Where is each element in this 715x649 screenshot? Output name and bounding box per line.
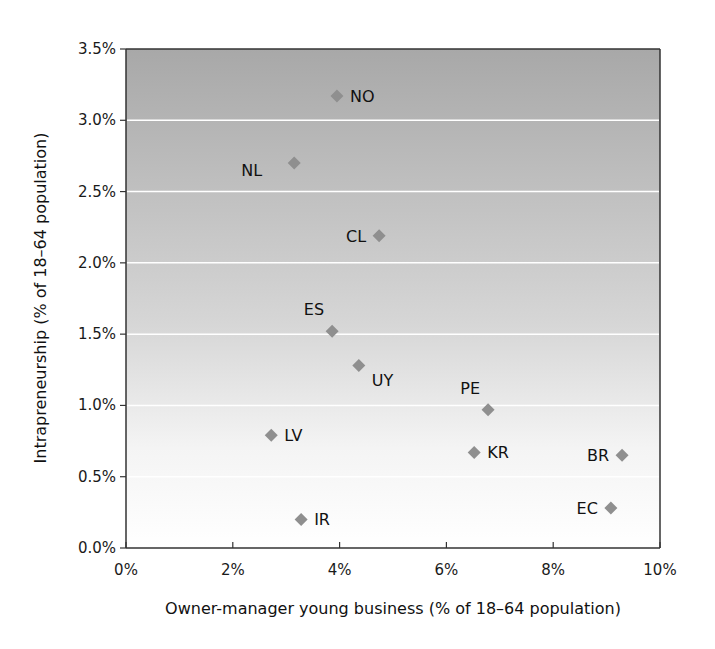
y-tick-label: 0.0% [78,539,116,557]
y-axis-ticks: 0.0%0.5%1.0%1.5%2.0%2.5%3.0%3.5% [78,40,126,557]
y-tick-label: 3.0% [78,111,116,129]
point-label: EC [577,499,598,518]
point-label: NL [241,161,262,180]
y-tick-label: 3.5% [78,40,116,58]
point-label: PE [460,379,480,398]
x-tick-label: 6% [435,561,459,579]
x-tick-label: 10% [643,561,676,579]
point-label: NO [350,87,375,106]
point-label: KR [487,443,509,462]
y-tick-label: 1.0% [78,396,116,414]
point-label: ES [304,300,324,319]
point-label: UY [372,371,394,390]
y-tick-label: 0.5% [78,468,116,486]
plot-background [126,49,660,548]
y-axis-title: Intrapreneurship (% of 18–64 population) [31,133,50,464]
x-tick-label: 4% [328,561,352,579]
x-tick-label: 8% [541,561,565,579]
point-label: IR [314,510,330,529]
point-label: LV [284,426,302,445]
y-tick-label: 2.5% [78,183,116,201]
point-label: CL [346,227,366,246]
x-tick-label: 2% [221,561,245,579]
y-tick-label: 2.0% [78,254,116,272]
y-tick-label: 1.5% [78,325,116,343]
scatter-chart: 0%2%4%6%8%10% 0.0%0.5%1.0%1.5%2.0%2.5%3.… [0,0,715,649]
point-label: BR [587,446,609,465]
x-axis-title: Owner-manager young business (% of 18–64… [165,599,621,618]
x-tick-label: 0% [114,561,138,579]
